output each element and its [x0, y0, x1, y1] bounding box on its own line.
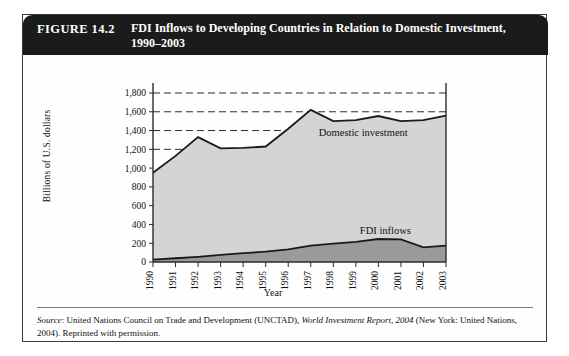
source-divider — [37, 307, 533, 308]
x-axis-tick-label: 1996 — [280, 271, 290, 290]
source-text-part1: : United Nations Council on Trade and De… — [62, 315, 302, 325]
x-axis-tick-label: 1999 — [348, 271, 358, 290]
y-axis-tick-label: 800 — [132, 182, 147, 192]
y-axis-tick-label: 600 — [132, 201, 147, 211]
fdi-inflows-label: FDI inflows — [360, 225, 411, 236]
x-axis-tick-label: 2001 — [393, 271, 403, 290]
source-note: Source: United Nations Council on Trade … — [37, 314, 533, 339]
x-axis-tick-label: 2003 — [438, 271, 448, 290]
y-axis-tick-label: 1,000 — [125, 164, 147, 174]
figure-number: FIGURE 14.2 — [37, 22, 115, 37]
y-axis-tick-label: 1,800 — [125, 88, 147, 98]
x-axis-tick-label: 1995 — [258, 271, 268, 290]
source-label: Source — [37, 315, 62, 325]
area-chart: 02004006008001,0001,2001,4001,6001,80019… — [23, 55, 546, 303]
x-axis-tick-label: 1992 — [190, 271, 200, 290]
x-axis-tick-label: 1991 — [168, 271, 178, 290]
y-axis-tick-label: 1,600 — [125, 107, 147, 117]
chart-plot-area: Billions of U.S. dollars Year 0200400600… — [23, 55, 546, 303]
figure-header: FIGURE 14.2 FDI Inflows to Developing Co… — [23, 15, 548, 55]
y-axis-tick-label: 1,400 — [125, 126, 147, 136]
x-axis-tick-label: 1997 — [303, 271, 313, 290]
x-axis-tick-label: 2000 — [370, 271, 380, 290]
y-axis-tick-label: 1,200 — [125, 145, 147, 155]
figure-card: FIGURE 14.2 FDI Inflows to Developing Co… — [22, 14, 547, 342]
source-publication: World Investment Report, 2004 — [301, 315, 413, 325]
x-axis-tick-label: 1993 — [213, 271, 223, 290]
x-axis-tick-label: 1990 — [145, 271, 155, 290]
x-axis-tick-label: 1998 — [325, 271, 335, 290]
y-axis-tick-label: 0 — [141, 257, 146, 267]
y-axis-tick-label: 200 — [132, 239, 147, 249]
figure-title: FDI Inflows to Developing Countries in R… — [131, 21, 535, 50]
y-axis-tick-label: 400 — [132, 220, 147, 230]
x-axis-tick-label: 1994 — [235, 271, 245, 290]
domestic-investment-label: Domestic investment — [319, 127, 408, 138]
x-axis-tick-label: 2002 — [415, 271, 425, 290]
